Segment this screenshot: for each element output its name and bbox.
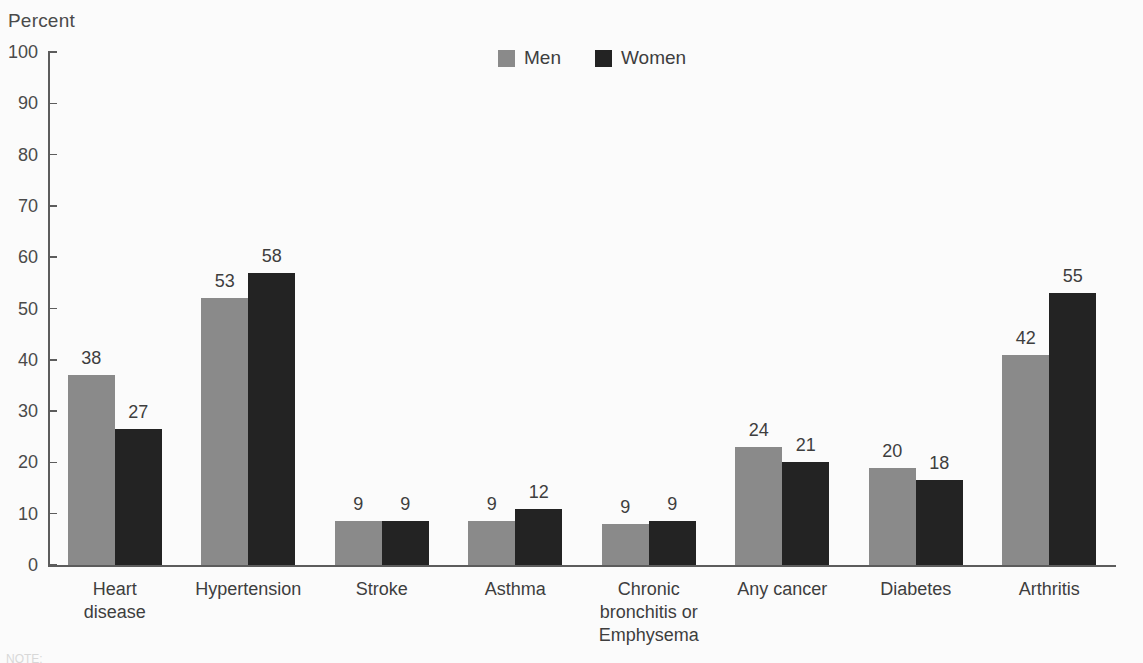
bar-women <box>515 509 562 565</box>
bar-value-label: 20 <box>882 441 902 462</box>
x-axis-category-label-line: Emphysema <box>599 624 699 647</box>
x-axis-category-label-line: Asthma <box>485 578 546 601</box>
x-axis-category-label-line: Stroke <box>356 578 408 601</box>
bar-men <box>1002 355 1049 565</box>
x-axis-category-label: Any cancer <box>737 578 827 601</box>
bar-men <box>201 298 248 565</box>
x-axis-category-label: Hypertension <box>195 578 301 601</box>
bar-women <box>916 480 963 565</box>
bar-men <box>869 468 916 565</box>
bar-value-label: 21 <box>796 435 816 456</box>
bar-value-label: 24 <box>749 420 769 441</box>
bar-value-label: 27 <box>128 402 148 423</box>
bar-value-label: 58 <box>262 246 282 267</box>
bar-value-label: 9 <box>667 494 677 515</box>
x-axis-category-label: Heartdisease <box>84 578 146 624</box>
bar-value-label: 53 <box>215 271 235 292</box>
bar-men <box>602 524 649 565</box>
bar-value-label: 9 <box>353 494 363 515</box>
x-axis-category-label-line: Heart <box>84 578 146 601</box>
x-axis-category-label-line: Any cancer <box>737 578 827 601</box>
bar-value-label: 9 <box>487 494 497 515</box>
bar-women <box>115 429 162 565</box>
bars-layer: 382753589991299242120184255 <box>0 0 1143 663</box>
bar-women <box>782 462 829 565</box>
bar-value-label: 55 <box>1063 266 1083 287</box>
bar-men <box>468 521 515 565</box>
bar-women <box>382 521 429 565</box>
bar-value-label: 9 <box>400 494 410 515</box>
bar-women <box>1049 293 1096 565</box>
x-axis-category-label: Diabetes <box>880 578 951 601</box>
footnote-note: NOTE: <box>6 652 43 663</box>
bar-value-label: 9 <box>620 497 630 518</box>
x-axis-category-label: Chronicbronchitis orEmphysema <box>599 578 699 647</box>
chart-plot-area: 0102030405060708090100 38275358999129924… <box>0 0 1143 663</box>
bar-value-label: 12 <box>529 482 549 503</box>
x-axis-category-label-line: disease <box>84 601 146 624</box>
bar-men <box>735 447 782 565</box>
bar-men <box>68 375 115 565</box>
bar-men <box>335 521 382 565</box>
bar-value-label: 38 <box>81 348 101 369</box>
x-axis-category-label-line: Hypertension <box>195 578 301 601</box>
bar-value-label: 42 <box>1016 328 1036 349</box>
x-axis-category-label: Arthritis <box>1019 578 1080 601</box>
x-axis-category-label-line: Chronic <box>599 578 699 601</box>
bar-women <box>248 273 295 565</box>
x-axis-category-label: Asthma <box>485 578 546 601</box>
x-axis-category-label-line: Diabetes <box>880 578 951 601</box>
bar-women <box>649 521 696 565</box>
bar-value-label: 18 <box>929 453 949 474</box>
x-axis-category-label: Stroke <box>356 578 408 601</box>
x-axis-category-label-line: Arthritis <box>1019 578 1080 601</box>
x-axis-category-label-line: bronchitis or <box>599 601 699 624</box>
